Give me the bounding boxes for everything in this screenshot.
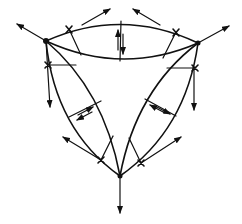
left-bottom-tie bbox=[101, 136, 113, 160]
left-inner-arc bbox=[46, 41, 120, 176]
vertex-b-outward-arrow bbox=[198, 26, 229, 43]
top-center-tie bbox=[120, 21, 121, 61]
right-bottom-tie bbox=[129, 138, 141, 163]
left-center-tie bbox=[69, 101, 101, 117]
vertex-a-outward-arrow bbox=[17, 24, 46, 41]
top-inner-arc bbox=[46, 41, 198, 59]
vertex-a-node bbox=[43, 38, 49, 44]
top-edge-right-arrow bbox=[133, 9, 160, 25]
right-center-out-arrow bbox=[155, 106, 170, 114]
right-edge-lens bbox=[120, 43, 198, 176]
bottom-right-arrow bbox=[141, 137, 181, 163]
left-center-in-arrow bbox=[77, 112, 92, 120]
triangular-membrane-diagram bbox=[0, 0, 242, 224]
vertex-c-node bbox=[118, 174, 123, 179]
left-outer-arc bbox=[46, 41, 120, 176]
top-edge-left-arrow bbox=[82, 9, 110, 25]
diagram-canvas bbox=[0, 0, 242, 224]
right-center-tie bbox=[145, 99, 176, 116]
left-edge-lens bbox=[45, 41, 120, 176]
top-right-cross-mark bbox=[173, 29, 179, 36]
vertex-b-node bbox=[196, 41, 201, 46]
top-edge-lens bbox=[46, 21, 198, 61]
